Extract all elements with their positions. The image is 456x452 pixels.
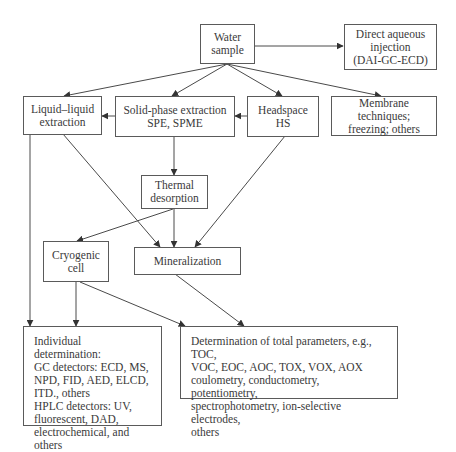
node-individual-determination: Individual determination: GC detectors: … — [23, 326, 162, 426]
node-headspace-label: Headspace HS — [258, 104, 308, 130]
node-thermal-desorption-label: Thermal desorption — [150, 179, 199, 205]
node-solid-phase-extraction-label: Solid-phase extraction SPE, SPME — [123, 104, 226, 130]
node-mineralization: Mineralization — [134, 247, 241, 275]
node-cryogenic-cell: Cryogenic cell — [43, 241, 109, 282]
node-direct-aqueous-injection: Direct aqueous injection (DAI-GC-ECD) — [344, 24, 437, 70]
node-solid-phase-extraction: Solid-phase extraction SPE, SPME — [115, 96, 235, 137]
node-mineralization-label: Mineralization — [154, 255, 222, 268]
node-cryogenic-cell-label: Cryogenic cell — [52, 249, 100, 275]
arrow-water-headspace — [227, 64, 282, 96]
node-direct-aqueous-injection-label: Direct aqueous injection (DAI-GC-ECD) — [353, 28, 428, 67]
node-membrane-techniques: Membrane techniques; freezing; others — [331, 96, 437, 136]
node-total-parameters-label: Determination of total parameters, e.g.,… — [191, 335, 387, 439]
arrow-water-spe — [172, 64, 227, 96]
arrow-thermal-cryogenic — [77, 209, 173, 241]
arrow-cryogenic-total — [80, 282, 185, 326]
node-total-parameters: Determination of total parameters, e.g.,… — [180, 326, 398, 399]
node-water-sample: Water sample — [200, 24, 255, 64]
node-headspace: Headspace HS — [247, 96, 319, 137]
node-membrane-techniques-label: Membrane techniques; freezing; others — [334, 97, 434, 136]
node-liquid-liquid-extraction: Liquid–liquid extraction — [23, 96, 102, 135]
node-individual-determination-label: Individual determination: GC detectors: … — [34, 335, 151, 452]
node-thermal-desorption: Thermal desorption — [141, 175, 208, 209]
node-liquid-liquid-extraction-label: Liquid–liquid extraction — [31, 103, 94, 129]
node-water-sample-label: Water sample — [211, 31, 244, 57]
arrow-headspace-mineralization — [195, 136, 285, 247]
arrow-mineralization-total — [175, 274, 244, 326]
arrow-water-lle — [64, 64, 227, 96]
